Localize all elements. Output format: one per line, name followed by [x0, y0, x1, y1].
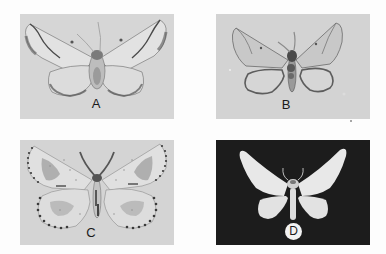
- moth-photo-c: C: [20, 140, 174, 245]
- panel-label-b: B: [278, 98, 294, 111]
- panel-label-a: A: [88, 97, 104, 110]
- panel-label-d: D: [285, 223, 302, 240]
- moth-photo-b: B: [216, 14, 370, 119]
- moth-photo-a: A: [20, 14, 174, 119]
- print-speck: [350, 120, 352, 122]
- panel-label-c: C: [83, 226, 99, 239]
- moth-photo-d: D: [216, 140, 370, 245]
